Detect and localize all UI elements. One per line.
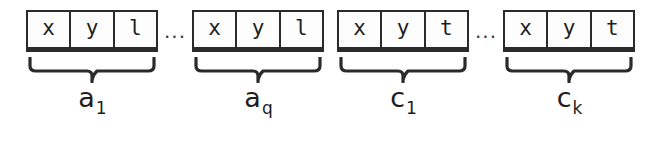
record-box-aq: x y l [192,10,324,52]
underbrace-aq [194,57,322,83]
record-cell-t: t [426,12,467,47]
ellipsis-between-a1-aq: ... [160,0,190,141]
group-label-ck: ck [501,84,637,111]
record-cell-x: x [194,12,237,47]
group-label-subscript: k [573,98,583,118]
record-group-a1: x y l a1 [24,0,160,141]
record-row: x y l a1 ... x y l [0,0,667,141]
group-spacer [326,0,335,141]
record-cell-x: x [339,12,382,47]
record-cell-t: t [592,12,633,47]
ellipsis-glyph: ... [160,21,190,41]
record-group-c1: x y t c1 [335,0,471,141]
group-label-base: a [244,82,261,113]
ellipsis-between-c1-ck: ... [471,0,501,141]
record-cell-l: l [115,12,156,47]
underbrace-c1 [339,57,467,83]
group-label-base: c [557,82,572,113]
record-cell-y: y [548,12,591,47]
record-box-ck: x y t [503,10,635,52]
group-label-aq: aq [190,84,326,111]
underbrace-a1 [28,57,156,83]
group-label-subscript: q [262,98,273,118]
record-cell-x: x [505,12,548,47]
group-label-c1: c1 [335,84,471,111]
record-box-a1: x y l [26,10,158,52]
record-box-c1: x y t [337,10,469,52]
record-cell-y: y [71,12,114,47]
record-cell-x: x [28,12,71,47]
record-group-ck: x y t ck [501,0,637,141]
record-cell-l: l [281,12,322,47]
group-label-a1: a1 [24,84,160,111]
group-label-base: c [390,82,405,113]
group-label-base: a [78,82,95,113]
record-sequence-diagram: x y l a1 ... x y l [0,0,667,141]
ellipsis-glyph: ... [471,21,501,41]
underbrace-ck [505,57,633,83]
group-label-subscript: 1 [96,98,107,118]
record-cell-y: y [237,12,280,47]
record-cell-y: y [382,12,425,47]
group-label-subscript: 1 [406,98,417,118]
record-group-aq: x y l aq [190,0,326,141]
